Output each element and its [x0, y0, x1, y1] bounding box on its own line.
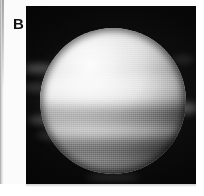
page-right-margin [196, 0, 204, 196]
plate-bottom-shadow [26, 184, 198, 187]
planet-image-plate [26, 6, 196, 184]
planet-disk [40, 28, 186, 174]
limb-wisp-bottom [86, 174, 140, 181]
page-edge-artifact-secondary [2, 0, 4, 92]
figure-panel: B [0, 0, 204, 196]
disk-limb-softening [40, 28, 186, 174]
panel-label: B [13, 16, 24, 31]
